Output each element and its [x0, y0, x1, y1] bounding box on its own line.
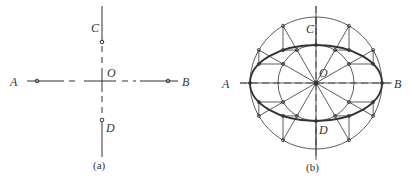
label-c-fig-a: C — [91, 21, 100, 35]
figure-b — [240, 6, 392, 160]
label-b-fig-a: B — [182, 75, 190, 89]
figure-a — [27, 6, 178, 157]
ellipse-construction-diagram: A B C D O (a) A B C O D (b) — [0, 0, 409, 186]
label-c-fig-b: C — [306, 22, 315, 36]
label-a-fig-b: A — [221, 77, 230, 91]
center-point — [314, 81, 318, 85]
radial-line — [316, 83, 373, 116]
label-d-fig-b: D — [318, 123, 328, 137]
label-a-fig-a: A — [9, 75, 18, 89]
caption-a: (a) — [93, 159, 106, 172]
label-b-fig-b: B — [394, 77, 402, 91]
radial-line — [283, 83, 316, 140]
point-d — [100, 118, 104, 122]
radial-line — [259, 83, 316, 116]
label-d-fig-a: D — [105, 121, 115, 135]
label-o-fig-b: O — [319, 66, 328, 80]
caption-b: (b) — [306, 161, 319, 174]
label-o-fig-a: O — [107, 66, 116, 80]
radial-line — [259, 50, 316, 83]
